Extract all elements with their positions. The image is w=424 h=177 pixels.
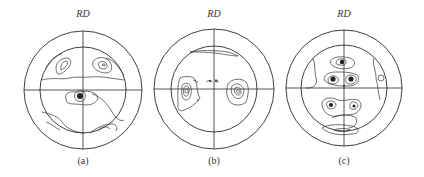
panel-label-b: (b) <box>208 155 220 167</box>
pole-figures: RD (a) RD <box>0 0 424 177</box>
rd-label-c: RD <box>336 8 351 19</box>
contours-c <box>306 57 384 135</box>
rd-label-a: RD <box>75 8 90 19</box>
pole-figure-c: RD (c) <box>286 8 402 167</box>
panel-label-c: (c) <box>338 155 349 167</box>
rd-label-b: RD <box>206 8 221 19</box>
panel-label-a: (a) <box>77 155 88 167</box>
pole-figure-b: RD (b) <box>154 8 274 167</box>
pole-figure-a: RD (a) <box>24 8 142 167</box>
contours-b <box>178 51 249 111</box>
